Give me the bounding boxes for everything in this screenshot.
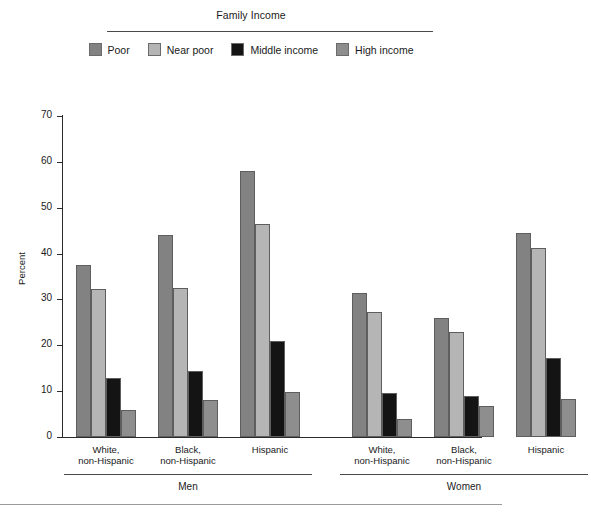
footer-divider xyxy=(0,504,502,505)
bar xyxy=(188,371,203,437)
x-axis-group-label-line1: Hispanic xyxy=(501,444,591,455)
x-axis-group-label: Black,non-Hispanic xyxy=(419,444,509,466)
x-axis-group-label-line1: Black, xyxy=(143,444,233,455)
bar xyxy=(121,410,136,437)
bar xyxy=(367,312,382,437)
x-axis-group-label: Hispanic xyxy=(225,444,315,455)
bar xyxy=(516,233,531,437)
y-axis-tick-label: 0 xyxy=(22,430,52,441)
bar xyxy=(546,358,561,437)
x-axis-group-label-line2: non-Hispanic xyxy=(61,455,151,466)
bar xyxy=(479,406,494,437)
y-axis-line xyxy=(62,115,63,438)
sex-group-rule xyxy=(64,474,312,475)
bar xyxy=(434,318,449,437)
y-axis-tick xyxy=(57,254,63,255)
y-axis-tick xyxy=(57,391,63,392)
x-axis-group-label: White,non-Hispanic xyxy=(337,444,427,466)
x-axis-group-label-line1: Hispanic xyxy=(225,444,315,455)
sex-group-label: Women xyxy=(340,481,588,492)
bar xyxy=(382,393,397,437)
x-axis-group-label-line1: Black, xyxy=(419,444,509,455)
x-axis-group-label-line2: non-Hispanic xyxy=(337,455,427,466)
bar xyxy=(352,293,367,437)
bar xyxy=(203,400,218,437)
sex-group-label: Men xyxy=(64,481,312,492)
y-axis-tick xyxy=(57,345,63,346)
x-axis-group-label: Hispanic xyxy=(501,444,591,455)
x-axis-group-label-line2: non-Hispanic xyxy=(419,455,509,466)
y-axis-tick-label: 60 xyxy=(22,155,52,166)
y-axis-tick xyxy=(57,116,63,117)
bar xyxy=(158,235,173,437)
bar xyxy=(285,392,300,437)
y-axis-tick-label: 30 xyxy=(22,292,52,303)
y-axis-tick xyxy=(57,162,63,163)
x-axis-group-label: White,non-Hispanic xyxy=(61,444,151,466)
bar xyxy=(240,171,255,437)
y-axis-tick-label: 70 xyxy=(22,109,52,120)
bar xyxy=(173,288,188,437)
y-axis-tick-label: 10 xyxy=(22,384,52,395)
bar xyxy=(91,289,106,437)
y-axis-tick xyxy=(57,208,63,209)
bar xyxy=(106,378,121,437)
bar xyxy=(270,341,285,437)
y-axis-tick-label: 20 xyxy=(22,338,52,349)
bar xyxy=(255,224,270,437)
x-axis-group-label-line2: non-Hispanic xyxy=(143,455,233,466)
x-axis-group-label-line1: White, xyxy=(337,444,427,455)
bar xyxy=(561,399,576,437)
bar xyxy=(76,265,91,437)
x-axis-line xyxy=(62,437,482,438)
y-axis-tick xyxy=(57,437,63,438)
sex-group-rule xyxy=(340,474,588,475)
y-axis-tick xyxy=(57,299,63,300)
bar xyxy=(531,248,546,437)
bar xyxy=(464,396,479,437)
x-axis-group-label: Black,non-Hispanic xyxy=(143,444,233,466)
x-axis-group-label-line1: White, xyxy=(61,444,151,455)
y-axis-tick-label: 50 xyxy=(22,201,52,212)
y-axis-tick-label: 40 xyxy=(22,247,52,258)
bar xyxy=(449,332,464,437)
bar xyxy=(397,419,412,437)
